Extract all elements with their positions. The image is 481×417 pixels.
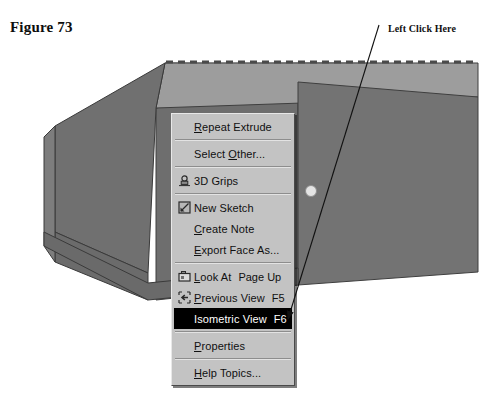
face-handle-dot[interactable]: [306, 186, 317, 197]
menu-item-look-at[interactable]: Look At Page Up: [172, 266, 294, 287]
solid-edge-context-menu[interactable]: Repeat Extrude Select Other... 3D Grips: [171, 113, 295, 386]
menu-item-label: Look At: [194, 271, 231, 283]
menu-separator: [175, 262, 291, 264]
menu-item-export-face-as[interactable]: Export Face As...: [172, 239, 294, 260]
menu-item-shortcut: Page Up: [238, 271, 281, 283]
menu-item-3d-grips[interactable]: 3D Grips: [172, 170, 294, 191]
previous-view-icon: [175, 289, 194, 307]
figure-caption: Figure 73: [10, 19, 73, 36]
menu-item-label: Help Topics...: [194, 367, 261, 379]
menu-item-repeat-extrude[interactable]: Repeat Extrude: [172, 116, 294, 137]
menu-item-label: Previous View: [194, 292, 265, 304]
figure-page: Figure 73 Repeat Extrude Select Other...…: [0, 0, 481, 417]
menu-item-new-sketch[interactable]: New Sketch: [172, 197, 294, 218]
menu-item-label: Select Other...: [194, 148, 265, 160]
menu-item-label: Repeat Extrude: [194, 121, 272, 133]
menu-item-previous-view[interactable]: Previous View F5: [172, 287, 294, 308]
3d-grips-icon: [175, 172, 194, 190]
menu-separator: [175, 193, 291, 195]
menu-item-properties[interactable]: Properties: [172, 335, 294, 356]
menu-item-select-other[interactable]: Select Other...: [172, 143, 294, 164]
menu-item-isometric-view[interactable]: Isometric View F6: [174, 308, 292, 329]
menu-item-help-topics[interactable]: Help Topics...: [172, 362, 294, 383]
menu-separator: [175, 166, 291, 168]
menu-separator: [175, 358, 291, 360]
new-sketch-icon: [175, 199, 194, 217]
menu-item-label: Create Note: [194, 223, 254, 235]
menu-item-shortcut: F5: [272, 292, 285, 304]
menu-item-label: 3D Grips: [194, 175, 238, 187]
menu-item-label: Properties: [194, 340, 245, 352]
model-far-wall: [298, 82, 478, 285]
menu-item-create-note[interactable]: Create Note: [172, 218, 294, 239]
look-at-icon: [175, 268, 194, 286]
menu-item-shortcut: F6: [274, 313, 287, 325]
menu-item-label: New Sketch: [194, 202, 254, 214]
menu-item-label: Export Face As...: [194, 244, 279, 256]
annotation-label: Left Click Here: [388, 23, 456, 34]
menu-separator: [175, 331, 291, 333]
menu-item-icon-empty: [175, 310, 194, 328]
menu-item-label: Isometric View: [194, 313, 267, 325]
menu-separator: [175, 139, 291, 141]
